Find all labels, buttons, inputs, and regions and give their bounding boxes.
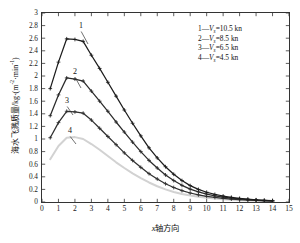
x-tick-label: 15 xyxy=(280,205,298,213)
x-tick-label: 3 xyxy=(82,205,100,213)
legend-entry-3: 3—Vs=6.5 kn xyxy=(198,43,242,53)
y-axis-unit-exp2: -1 xyxy=(9,60,15,65)
legend-entry-value: =8.5 kn xyxy=(216,34,239,43)
y-axis-unit-exp1: -2 xyxy=(9,80,15,85)
legend-entry-4: 4—Vs=4.5 kn xyxy=(198,53,242,63)
x-tick-label: 5 xyxy=(115,205,133,213)
curve-number-label-3: 3 xyxy=(65,97,69,105)
curve-number-label-1: 1 xyxy=(79,22,83,30)
x-tick-label: 6 xyxy=(132,205,150,213)
plot-area xyxy=(41,12,290,203)
series-line-4 xyxy=(50,137,272,201)
legend-entry-value: =10.5 kn xyxy=(216,24,242,33)
x-tick-label: 7 xyxy=(148,205,166,213)
y-axis-unit-pre: /kg·(m xyxy=(11,85,20,107)
x-axis-title: x轴方向 xyxy=(41,224,290,233)
x-axis-title-text: 轴方向 xyxy=(155,223,179,233)
legend-entry-value: =6.5 kn xyxy=(216,43,239,52)
x-tick-label: 9 xyxy=(181,205,199,213)
legend-entry-index: 4— xyxy=(198,53,209,62)
x-tick-label: 14 xyxy=(264,205,282,213)
x-tick-label: 2 xyxy=(66,205,84,213)
x-tick-label: 8 xyxy=(165,205,183,213)
figure-chart-seawater-spray-mass: 00.20.40.60.811.21.41.61.822.22.42.62.83… xyxy=(0,0,300,243)
legend-entry-value: =4.5 kn xyxy=(216,53,239,62)
y-axis-unit-mid: ·min xyxy=(11,65,20,80)
y-axis-title: 海水飞溅质量/kg·(m-2·min-1) xyxy=(8,8,20,204)
curve-number-label-4: 4 xyxy=(68,127,72,135)
x-tick-label: 12 xyxy=(231,205,249,213)
legend-entry-index: 3— xyxy=(198,43,209,52)
legend-entry-index: 2— xyxy=(198,34,209,43)
legend-entry-index: 1— xyxy=(198,24,209,33)
x-tick-label: 1 xyxy=(49,205,67,213)
x-tick-label: 4 xyxy=(99,205,117,213)
y-axis-unit-post: ) xyxy=(11,57,20,60)
legend: 1—Vs=10.5 kn2—Vs=8.5 kn3—Vs=6.5 kn4—Vs=4… xyxy=(198,24,242,62)
x-tick-label: 11 xyxy=(214,205,232,213)
x-tick-label: 0 xyxy=(33,205,51,213)
x-tick-label: 13 xyxy=(247,205,265,213)
curves-svg xyxy=(42,13,289,202)
legend-entry-2: 2—Vs=8.5 kn xyxy=(198,34,242,44)
curve-number-label-2: 2 xyxy=(73,68,77,76)
y-axis-title-text: 海水飞溅质量 xyxy=(11,106,20,154)
x-tick-label: 10 xyxy=(198,205,216,213)
legend-entry-1: 1—Vs=10.5 kn xyxy=(198,24,242,34)
